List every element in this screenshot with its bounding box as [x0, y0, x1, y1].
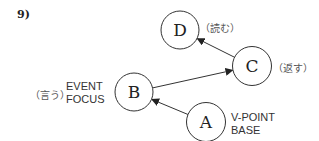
- edge-a-to-b: [152, 100, 188, 115]
- diagram: 9) ABCD （読む） （返す） （言う） EVENT FOCUS V-POI…: [0, 0, 319, 141]
- node-a-role: V-POINT BASE: [231, 111, 275, 137]
- node-b-role-line-2: FOCUS: [66, 93, 105, 106]
- edge-b-to-c: [153, 70, 233, 88]
- node-b-gloss: （言う）: [30, 87, 70, 102]
- node-b-label: B: [128, 82, 141, 102]
- node-b-role: EVENT FOCUS: [66, 80, 105, 106]
- node-a-role-line-2: BASE: [231, 124, 275, 137]
- node-a-role-line-1: V-POINT: [231, 111, 275, 124]
- node-c-label: C: [245, 56, 258, 76]
- node-c-gloss: （返す）: [273, 60, 313, 75]
- node-d-gloss: （読む）: [200, 20, 240, 35]
- node-a-label: A: [199, 112, 213, 132]
- edge-c-to-d: [197, 39, 234, 58]
- node-d-label: D: [173, 20, 187, 40]
- node-b-role-line-1: EVENT: [66, 80, 105, 93]
